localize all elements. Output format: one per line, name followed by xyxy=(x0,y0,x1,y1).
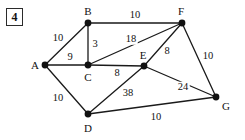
edge-weight-C-E: 8 xyxy=(113,68,120,79)
graph-edge-E-F xyxy=(144,23,182,66)
edge-weight-D-E: 38 xyxy=(122,88,135,99)
node-label-B: B xyxy=(84,6,91,17)
graph-figure: 4 ABCDEFG 10910310818381082410 xyxy=(0,0,245,140)
graph-node-B[interactable] xyxy=(85,20,92,27)
graph-node-A[interactable] xyxy=(42,62,49,69)
edge-weight-D-G: 10 xyxy=(150,112,163,123)
edge-weight-A-C: 9 xyxy=(66,52,73,63)
node-label-C: C xyxy=(84,72,91,83)
node-label-D: D xyxy=(84,123,92,134)
graph-node-F[interactable] xyxy=(179,20,186,27)
graph-node-G[interactable] xyxy=(213,94,220,101)
edge-weight-B-F: 10 xyxy=(129,10,142,21)
edge-weight-E-G: 24 xyxy=(177,82,190,93)
node-label-E: E xyxy=(140,50,147,61)
edge-weight-C-F: 18 xyxy=(125,34,138,45)
edge-weight-A-D: 10 xyxy=(52,93,65,104)
edge-weight-F-G: 10 xyxy=(202,51,215,62)
graph-edge-A-D xyxy=(45,65,88,114)
graph-node-C[interactable] xyxy=(85,62,92,69)
edge-weight-E-F: 8 xyxy=(163,46,170,57)
node-label-G: G xyxy=(222,101,230,112)
edge-weight-A-B: 10 xyxy=(52,33,65,44)
node-label-F: F xyxy=(178,6,184,17)
node-label-A: A xyxy=(31,60,39,71)
edge-weight-B-C: 3 xyxy=(91,39,98,50)
graph-node-E[interactable] xyxy=(141,63,148,70)
graph-node-D[interactable] xyxy=(85,111,92,118)
